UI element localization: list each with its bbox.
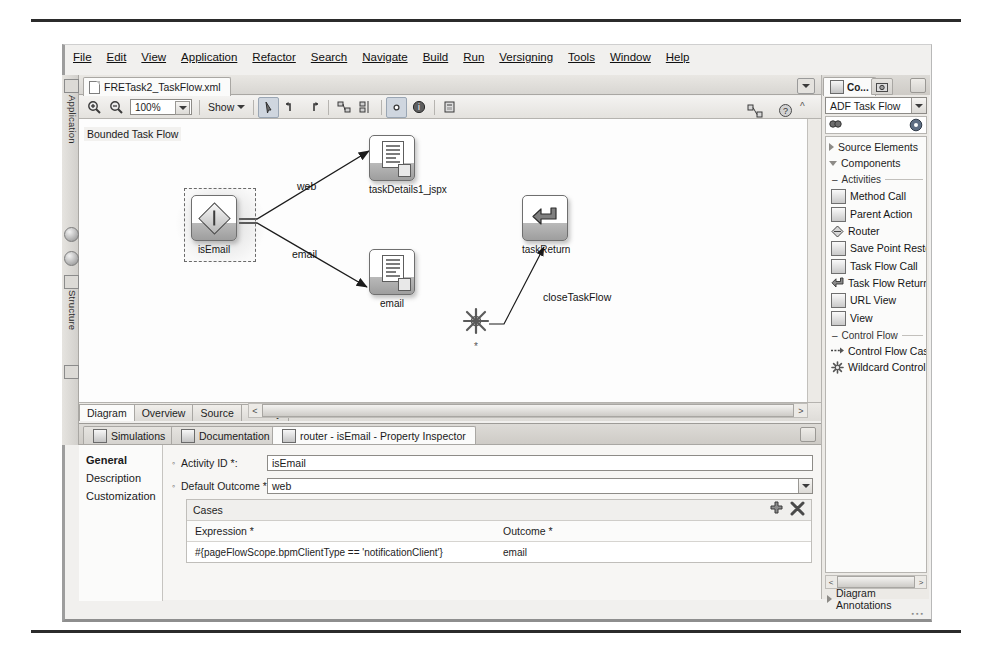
tab-overview[interactable]: Overview [134,404,194,421]
palette-options-icon[interactable] [909,118,923,132]
add-case-button[interactable] [769,501,784,516]
diagram-vertical-scrollbar[interactable] [807,119,821,402]
search-input[interactable] [843,119,909,132]
menu-item-help[interactable]: Help [659,50,698,64]
menu-item-search[interactable]: Search [304,50,355,64]
diagram-horizontal-scrollbar[interactable]: < > [248,403,808,418]
menu-item-view[interactable]: View [134,50,174,64]
node-taskReturn[interactable]: taskReturn [522,195,570,255]
activity-id-input[interactable]: isEmail [267,455,813,471]
application-icon[interactable] [64,79,79,93]
editor-tab-overflow-button[interactable] [797,78,815,94]
zoom-in-icon[interactable] [83,97,104,118]
navigator-icon[interactable] [64,227,79,242]
scroll-right-arrow[interactable]: > [795,406,807,416]
chevron-down-icon[interactable] [175,101,190,115]
tab-diagram[interactable]: Diagram [79,404,135,421]
scroll-left-arrow[interactable]: < [249,406,261,416]
node-email[interactable]: email [369,249,415,309]
publish-icon[interactable] [439,97,460,118]
palette-group-source-elements[interactable]: Source Elements [826,139,926,155]
palette-item-wildcard-control-flow-rule[interactable]: Wildcard Control Flow Ru [826,359,926,375]
align-group-icon[interactable] [333,97,354,118]
recent-files-icon[interactable] [64,251,79,266]
scroll-left-arrow[interactable]: < [826,578,836,587]
palette-filter-icon[interactable] [829,119,843,131]
menu-item-application[interactable]: Application [174,50,245,64]
edge-label-email[interactable]: email [292,248,317,260]
chevron-down-icon[interactable] [798,479,812,493]
chevron-down-icon[interactable] [911,98,926,113]
inspector-nav-general[interactable]: General [79,451,162,469]
menu-item-build[interactable]: Build [416,50,457,64]
inspector-nav-customization[interactable]: Customization [79,487,162,505]
elbow-up-right-icon[interactable] [302,97,323,118]
edge-label-closeTaskFlow[interactable]: closeTaskFlow [543,291,611,303]
help-icon[interactable]: ? [775,100,796,121]
inspector-restore-button[interactable] [800,427,816,442]
zoom-level-combo[interactable]: 100% [130,99,192,115]
node-taskDetails1-jspx[interactable]: taskDetails1_jspx [369,135,447,195]
pointer-tool-icon[interactable] [258,97,279,118]
inspector-nav-description[interactable]: Description [79,469,162,487]
default-outcome-label: Default Outcome *: [181,480,267,492]
scroll-right-arrow[interactable]: > [916,578,926,587]
column-header-expression[interactable]: Expression * [187,525,495,537]
node-isEmail[interactable]: isEmail [191,195,237,255]
menu-item-window[interactable]: Window [603,50,659,64]
palette-library-select[interactable]: ADF Task Flow [825,97,927,114]
show-menu-button[interactable]: Show [204,101,249,113]
palette-minimize-button[interactable] [910,78,926,93]
table-row[interactable]: #{pageFlowScope.bpmClientType == 'notifi… [187,542,811,562]
palette-item-url-view[interactable]: URL View [826,291,926,309]
menu-item-versigning[interactable]: Versigning [492,50,561,64]
wildcard-control-flow-icon[interactable] [462,307,490,335]
thumbnail-icon[interactable] [744,100,765,121]
delete-case-button[interactable] [790,501,805,516]
tab-property-inspector[interactable]: router - isEmail - Property Inspector [272,426,476,445]
sidebar-item-application[interactable]: Application [63,95,78,169]
router-icon [282,429,296,443]
toggle-grid-icon[interactable] [386,97,407,118]
menu-item-file[interactable]: File [66,50,100,64]
menu-item-edit[interactable]: Edit [100,50,135,64]
cell-expression[interactable]: #{pageFlowScope.bpmClientType == 'notifi… [187,547,495,558]
column-header-outcome[interactable]: Outcome * [495,525,553,537]
elbow-up-left-icon[interactable] [280,97,301,118]
scrollbar-thumb[interactable] [262,404,794,417]
tab-components[interactable]: Co... [823,77,876,96]
palette-item-router[interactable]: Router [826,223,926,239]
palette-item-view[interactable]: View [826,309,926,327]
align-distribute-icon[interactable] [355,97,376,118]
palette-footer-diagram-annotations[interactable]: Diagram Annotations [824,591,931,607]
cell-outcome[interactable]: email [495,547,527,558]
tab-documentation[interactable]: Documentation [171,426,280,445]
resize-grip[interactable]: ▪▪▪ [912,610,925,617]
menu-item-navigate[interactable]: Navigate [355,50,415,64]
menu-item-run[interactable]: Run [456,50,492,64]
menu-item-refactor[interactable]: Refactor [245,50,303,64]
sidebar-item-structure[interactable]: Structure [63,290,78,352]
edge-label-web[interactable]: web [297,180,316,192]
zoom-out-icon[interactable] [105,97,126,118]
structure-icon[interactable] [64,275,79,289]
palette-item-task-flow-return[interactable]: Task Flow Return [826,275,926,291]
palette-item-save-point-restore[interactable]: Save Point Restore [826,239,926,257]
palette-list[interactable]: Source Elements Components – Activities … [825,136,927,573]
scroll-up-arrow[interactable]: ^ [800,101,805,112]
palette-item-control-flow-case[interactable]: Control Flow Case [826,343,926,359]
palette-item-parent-action[interactable]: Parent Action [826,205,926,223]
info-icon[interactable]: i [408,97,429,118]
default-outcome-combo[interactable]: web [267,478,813,494]
palette-search-row[interactable] [825,116,927,134]
palette-group-components[interactable]: Components [826,155,926,171]
palette-item-task-flow-call[interactable]: Task Flow Call [826,257,926,275]
menu-item-tools[interactable]: Tools [561,50,603,64]
editor-tab-taskflow[interactable]: FRETask2_TaskFlow.xml [83,77,231,96]
palette-item-method-call[interactable]: Method Call [826,187,926,205]
tab-resources[interactable] [871,78,893,95]
log-icon[interactable] [64,365,79,379]
tab-simulations[interactable]: Simulations [83,426,175,445]
tab-source[interactable]: Source [192,404,241,421]
diagram-canvas[interactable]: Bounded Task Flow isEmail taskDetai [79,119,807,402]
